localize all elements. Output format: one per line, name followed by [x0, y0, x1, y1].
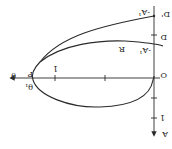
label-r: R — [118, 45, 125, 54]
label-one-vertical: 1 — [160, 113, 165, 122]
label-neg-a1-upper: -A¹ — [138, 8, 150, 17]
label-a: A — [162, 130, 169, 139]
label-theta: θ — [11, 71, 16, 80]
label-p: P — [27, 70, 33, 79]
label-origin: O — [160, 71, 167, 80]
label-one-horizontal: 1 — [53, 64, 58, 73]
loop-curve — [32, 62, 154, 107]
label-d-prime: D' — [161, 10, 170, 19]
upper-curve — [40, 16, 154, 62]
label-theta1: θ₁ — [25, 82, 33, 91]
label-d: D — [161, 33, 167, 42]
diagram-canvas: θ P θ₁ 1 O D R -A¹ -A¹ D' 1 A — [0, 0, 172, 149]
label-neg-a1-lower: -A¹ — [139, 46, 151, 55]
